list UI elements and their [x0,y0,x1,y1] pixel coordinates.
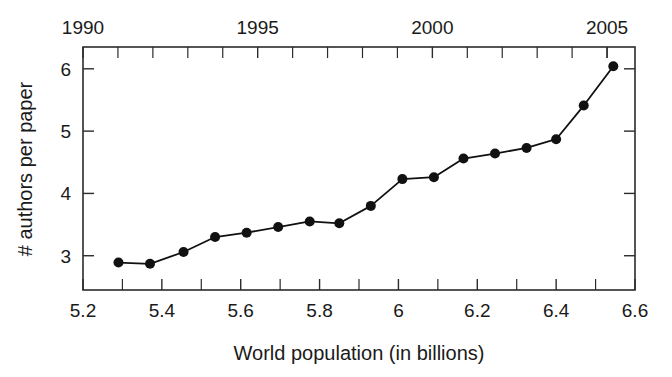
y-axis-tick-labels: 3456 [60,59,71,267]
x-tick-label: 5.2 [70,300,96,321]
year-tick-label: 2005 [586,17,628,38]
line-chart: 5.25.45.65.866.26.46.6 1990199520002005 … [0,0,672,377]
x-tick-label: 5.4 [149,300,176,321]
data-point [334,218,344,228]
x-tick-label: 6.2 [464,300,490,321]
y-tick-label: 3 [60,246,71,267]
data-point [458,154,468,164]
year-tick-label: 2000 [411,17,453,38]
series-line [118,66,613,264]
x-axis-title: World population (in billions) [234,342,485,364]
data-point [551,134,561,144]
year-tick-label: 1995 [237,17,279,38]
data-point [210,232,220,242]
data-point [145,259,155,269]
x-tick-label: 5.8 [306,300,332,321]
data-point [429,172,439,182]
y-tick-label: 4 [60,183,71,204]
y-axis-ticks-right [624,69,635,256]
y-axis-ticks [83,69,94,256]
y-tick-label: 6 [60,59,71,80]
x-axis-tick-labels: 5.25.45.65.866.26.46.6 [70,300,648,321]
x-tick-label: 6 [393,300,404,321]
data-point [242,228,252,238]
x-axis-ticks [83,279,635,290]
data-point [490,149,500,159]
chart-figure: 5.25.45.65.866.26.46.6 1990199520002005 … [0,0,672,377]
series-markers [113,61,618,269]
x-tick-label: 6.4 [543,300,570,321]
data-point [397,174,407,184]
x-tick-label: 5.6 [228,300,254,321]
year-axis-tick-labels: 1990199520002005 [62,17,628,38]
plot-frame [83,47,635,290]
year-tick-label: 1990 [62,17,104,38]
data-point [113,258,123,268]
data-point [273,222,283,232]
data-series-authors-per-paper [113,61,618,269]
data-point [608,61,618,71]
data-point [366,201,376,211]
x-tick-label: 6.6 [622,300,648,321]
data-point [305,216,315,226]
data-point [579,101,589,111]
data-point [522,143,532,153]
data-point [179,247,189,257]
y-tick-label: 5 [60,121,71,142]
year-axis-ticks [83,47,607,58]
y-axis-title: # authors per paper [14,81,36,256]
